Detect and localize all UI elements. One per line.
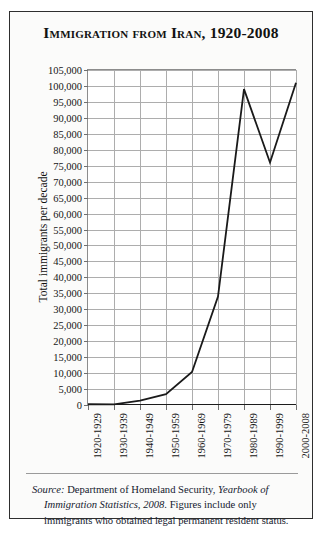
y-tick-label: 55,000 (53, 224, 82, 235)
x-tick-mark (244, 405, 245, 410)
source-note: Source: Department of Homeland Security,… (32, 482, 294, 528)
source-label: Source: (32, 484, 65, 495)
y-tick-label: 50,000 (53, 240, 82, 251)
x-tick-label: 1980-1989 (248, 413, 259, 459)
source-note-line-1: Source: Department of Homeland Security,… (32, 482, 294, 497)
x-tick-label: 1970-1979 (222, 413, 233, 459)
x-tick-mark (218, 405, 219, 410)
source-line1-rest: Department of Homeland Security, (65, 484, 218, 495)
x-tick-mark (166, 405, 167, 410)
y-tick-label: 45,000 (53, 256, 82, 267)
y-tick-label: 60,000 (53, 208, 82, 219)
y-tick-label: 35,000 (53, 288, 82, 299)
x-tick-mark (114, 405, 115, 410)
y-tick-label: 5,000 (58, 384, 82, 395)
y-tick-label: 100,000 (48, 80, 82, 91)
x-tick-label: 1940-1949 (144, 413, 155, 459)
x-tick-label: 1960-1969 (196, 413, 207, 459)
y-tick-label: 15,000 (53, 352, 82, 363)
source-note-line-2: Immigration Statistics, 2008. Figures in… (32, 497, 294, 512)
x-tick-label: 1920-1929 (92, 413, 103, 459)
source-note-line-3: immigrants who obtained legal permanent … (32, 513, 294, 528)
x-tick-mark (296, 405, 297, 410)
x-tick-mark (140, 405, 141, 410)
y-axis-title-text: Total immigrants per decade (37, 171, 49, 302)
y-tick-label: 30,000 (53, 304, 82, 315)
figure-panel: Immigration from Iran, 1920-2008 Total i… (9, 11, 313, 519)
note-divider (26, 473, 298, 474)
y-tick-label: 105,000 (48, 65, 82, 76)
plot-area: 105,000100,00095,00090,00085,00080,00075… (87, 69, 296, 405)
chart-title: Immigration from Iran, 1920-2008 (10, 24, 312, 42)
y-tick-label: 90,000 (53, 112, 82, 123)
y-tick-label: 0 (77, 400, 82, 411)
y-tick-label: 10,000 (53, 368, 82, 379)
source-line2-rest: . Figures include only (164, 499, 256, 510)
x-tick-label: 1950-1959 (170, 413, 181, 459)
y-tick-label: 95,000 (53, 96, 82, 107)
y-tick-label: 65,000 (53, 192, 82, 203)
y-tick-label: 25,000 (53, 320, 82, 331)
x-tick-label: 1930-1939 (118, 413, 129, 459)
series-layer (88, 70, 296, 405)
y-tick-label: 70,000 (53, 176, 82, 187)
y-tick-label: 80,000 (53, 144, 82, 155)
gridline-vertical (296, 70, 297, 405)
y-tick-label: 40,000 (53, 272, 82, 283)
x-tick-label: 2000-2008 (300, 413, 311, 459)
y-tick-label: 75,000 (53, 160, 82, 171)
x-tick-mark (270, 405, 271, 410)
source-line1-italic: Yearbook of (218, 484, 269, 495)
y-tick-label: 20,000 (53, 336, 82, 347)
y-axis-title: Total immigrants per decade (36, 69, 50, 405)
x-tick-mark (88, 405, 89, 410)
x-tick-mark (192, 405, 193, 410)
source-line2-italic: Immigration Statistics, 2008 (44, 499, 164, 510)
y-tick-label: 85,000 (53, 128, 82, 139)
data-series-line (88, 83, 296, 405)
x-tick-label: 1990-1999 (274, 413, 285, 459)
